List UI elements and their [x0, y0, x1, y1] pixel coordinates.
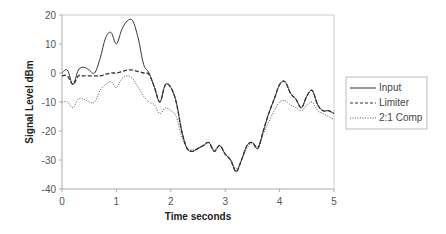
- legend-label: Input: [379, 82, 401, 93]
- x-axis-ticks: 012345: [59, 189, 337, 207]
- x-tick-label: 4: [277, 196, 283, 207]
- y-axis-title: Signal Level dBm: [24, 60, 35, 143]
- legend: Input Limiter 2:1 Comp: [346, 77, 427, 129]
- x-tick-label: 0: [59, 196, 65, 207]
- x-axis-title: Time seconds: [165, 211, 232, 222]
- x-tick-label: 3: [222, 196, 228, 207]
- series-line-2-1-comp: [62, 76, 334, 169]
- line-chart: -40-30-20-1001020 012345 Signal Level dB…: [0, 0, 446, 234]
- x-tick-label: 1: [114, 196, 120, 207]
- y-axis-ticks: -40-30-20-1001020: [42, 10, 62, 195]
- y-tick-label: -10: [42, 97, 57, 108]
- y-tick-label: -20: [42, 126, 57, 137]
- x-tick-label: 5: [331, 196, 337, 207]
- plot-area: [62, 15, 334, 189]
- y-tick-label: -40: [42, 184, 57, 195]
- series-lines: [62, 19, 334, 171]
- series-line-limiter: [62, 70, 334, 172]
- x-tick-label: 2: [168, 196, 174, 207]
- y-tick-label: 20: [45, 10, 57, 21]
- legend-label: 2:1 Comp: [379, 112, 423, 123]
- y-tick-label: -30: [42, 155, 57, 166]
- legend-label: Limiter: [379, 97, 410, 108]
- y-tick-label: 10: [45, 39, 57, 50]
- y-tick-label: 0: [50, 68, 56, 79]
